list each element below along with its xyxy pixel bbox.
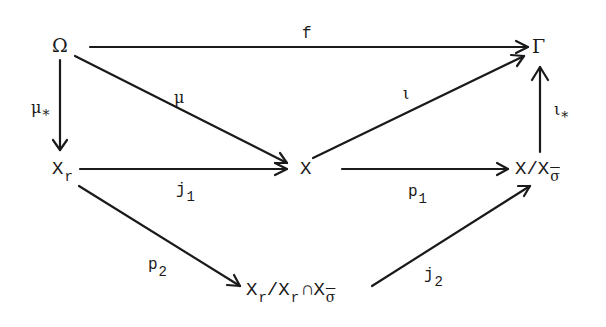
label-mu-star-sub: * bbox=[42, 107, 49, 123]
label-p2: p2 bbox=[148, 257, 167, 273]
label-mu: μ bbox=[174, 90, 184, 106]
label-mu-star: μ* bbox=[31, 100, 49, 116]
label-iota-star: ι* bbox=[554, 102, 568, 118]
label-j1-sub: 1 bbox=[187, 189, 195, 205]
label-p1-sub: 1 bbox=[419, 191, 427, 207]
label-iota-star-text: ι bbox=[554, 100, 560, 119]
node-quotient-sub: σ bbox=[550, 168, 560, 184]
arrow-iota bbox=[313, 55, 524, 158]
arrow-j1 bbox=[80, 163, 287, 175]
node-bottom-slash: /X bbox=[267, 279, 290, 301]
node-gamma: Γ bbox=[532, 37, 545, 56]
label-f-text: f bbox=[302, 25, 312, 43]
label-mu-text: μ bbox=[174, 88, 184, 107]
arrow-j2 bbox=[372, 186, 530, 286]
label-mu-star-text: μ bbox=[31, 98, 41, 117]
label-p2-text: p bbox=[148, 256, 158, 274]
node-omega: Ω bbox=[52, 36, 68, 55]
label-iota-text: ι bbox=[403, 84, 409, 103]
label-f: f bbox=[302, 26, 312, 42]
node-x-r-base: X bbox=[52, 158, 63, 180]
node-bottom-x1: X bbox=[246, 279, 257, 301]
node-x-r-sub: r bbox=[64, 169, 72, 185]
label-j2-sub: 2 bbox=[435, 274, 443, 290]
node-quotient-base: X/X bbox=[515, 158, 549, 180]
node-x-r: Xr bbox=[52, 160, 73, 179]
label-iota-star-sub: * bbox=[561, 109, 568, 125]
label-p2-sub: 2 bbox=[159, 264, 167, 280]
node-gamma-label: Γ bbox=[532, 35, 545, 57]
arrow-iota-star bbox=[532, 67, 548, 152]
arrow-p1 bbox=[342, 163, 508, 175]
node-x-label: X bbox=[300, 158, 311, 180]
label-j1-text: j bbox=[176, 181, 186, 199]
node-omega-label: Ω bbox=[52, 34, 68, 56]
node-bottom: Xr/Xr∩Xσ bbox=[246, 281, 335, 300]
label-j2-text: j bbox=[424, 266, 434, 284]
node-quotient: X/Xσ bbox=[515, 160, 560, 179]
label-p1: p1 bbox=[408, 184, 427, 200]
label-p1-text: p bbox=[408, 183, 418, 201]
node-bottom-sub3: σ bbox=[326, 289, 336, 305]
label-j2: j2 bbox=[424, 267, 443, 283]
node-bottom-sub1: r bbox=[258, 290, 266, 306]
node-bottom-cap: ∩X bbox=[302, 279, 325, 301]
arrow-mu-star bbox=[53, 60, 67, 150]
node-bottom-sub2: r bbox=[291, 290, 299, 306]
node-x: X bbox=[300, 160, 311, 179]
commutative-diagram: Ω Γ Xr X X/Xσ Xr/Xr∩Xσ f μ μ* j1 ι p1 ι*… bbox=[0, 0, 606, 327]
label-iota: ι bbox=[403, 86, 409, 102]
arrow-mu bbox=[75, 56, 287, 163]
label-j1: j1 bbox=[176, 182, 195, 198]
